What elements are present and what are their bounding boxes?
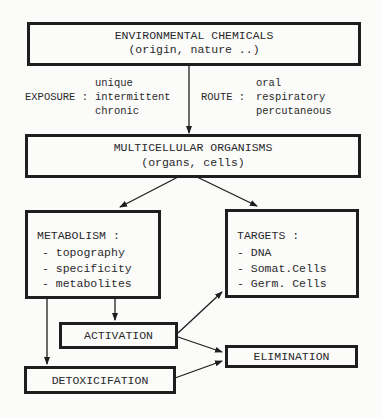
arrow-organisms-to-metabolism [120, 177, 178, 207]
exposure-label: EXPOSURE : [25, 90, 88, 104]
detoxification-box: DETOXICIFATION [24, 366, 176, 394]
activation-label: ACTIVATION [62, 329, 175, 343]
targets-item-germ-cells: - Germ. Cells [237, 277, 327, 291]
route-item-respiratory: respiratory [256, 90, 325, 104]
multicellular-organisms-title: MULTICELLULAR ORGANISMS [28, 141, 358, 155]
multicellular-organisms-subtitle: (organs, cells) [28, 156, 358, 170]
route-item-oral: oral [256, 76, 281, 90]
arrow-organisms-to-targets [197, 177, 257, 206]
targets-box: TARGETS : - DNA - Somat.Cells - Germ. Ce… [225, 209, 359, 298]
detoxification-label: DETOXICIFATION [27, 374, 173, 388]
arrow-activation-to-targets [178, 292, 222, 333]
elimination-label: ELIMINATION [228, 350, 355, 364]
multicellular-organisms-box: MULTICELLULAR ORGANISMS (organs, cells) [25, 134, 361, 178]
arrow-activation-to-elimination [178, 337, 222, 352]
exposure-item-unique: unique [95, 76, 133, 90]
targets-item-somatic-cells: - Somat.Cells [237, 262, 327, 276]
metabolism-item-metabolites: - metabolites [42, 277, 132, 291]
elimination-box: ELIMINATION [225, 345, 358, 368]
exposure-item-intermittent: intermittent [95, 90, 171, 104]
environmental-chemicals-subtitle: (origin, nature ..) [30, 43, 358, 57]
environmental-chemicals-box: ENVIRONMENTAL CHEMICALS (origin, nature … [27, 22, 361, 66]
route-item-percutaneous: percutaneous [256, 104, 332, 118]
activation-box: ACTIVATION [59, 322, 178, 349]
targets-title: TARGETS : [237, 229, 299, 243]
metabolism-item-specificity: - specificity [42, 262, 132, 276]
exposure-item-chronic: chronic [95, 104, 139, 118]
metabolism-item-topography: - topography [42, 246, 125, 260]
arrow-detoxification-to-elimination [175, 361, 222, 378]
metabolism-box: METABOLISM : - topography - specificity … [25, 210, 161, 299]
environmental-chemicals-title: ENVIRONMENTAL CHEMICALS [30, 29, 358, 43]
route-label: ROUTE : [201, 90, 245, 104]
toxicology-flow-diagram: ENVIRONMENTAL CHEMICALS (origin, nature … [0, 0, 382, 419]
targets-item-dna: - DNA [237, 246, 272, 260]
metabolism-title: METABOLISM : [37, 229, 120, 243]
